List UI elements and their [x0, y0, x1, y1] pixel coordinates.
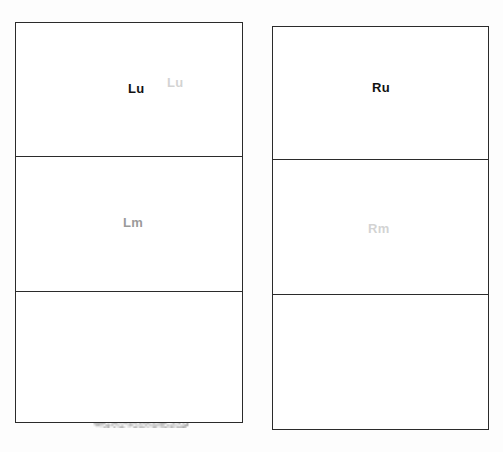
left-kidney-roi-divider-1[interactable]: [16, 156, 242, 157]
roi-label-Lm: Lm: [123, 216, 143, 229]
roi-label-Rm: Rm: [368, 222, 390, 235]
right-kidney-roi-divider-2[interactable]: [273, 294, 488, 295]
roi-label-Lu2: Lu: [167, 76, 183, 89]
left-kidney-roi-divider-2[interactable]: [16, 291, 242, 292]
scintigraphy-image: LuLmLuRuRm: [0, 0, 503, 452]
right-kidney-roi-divider-1[interactable]: [273, 159, 488, 160]
roi-label-Lu: Lu: [128, 82, 144, 95]
roi-label-Ru: Ru: [372, 81, 390, 94]
